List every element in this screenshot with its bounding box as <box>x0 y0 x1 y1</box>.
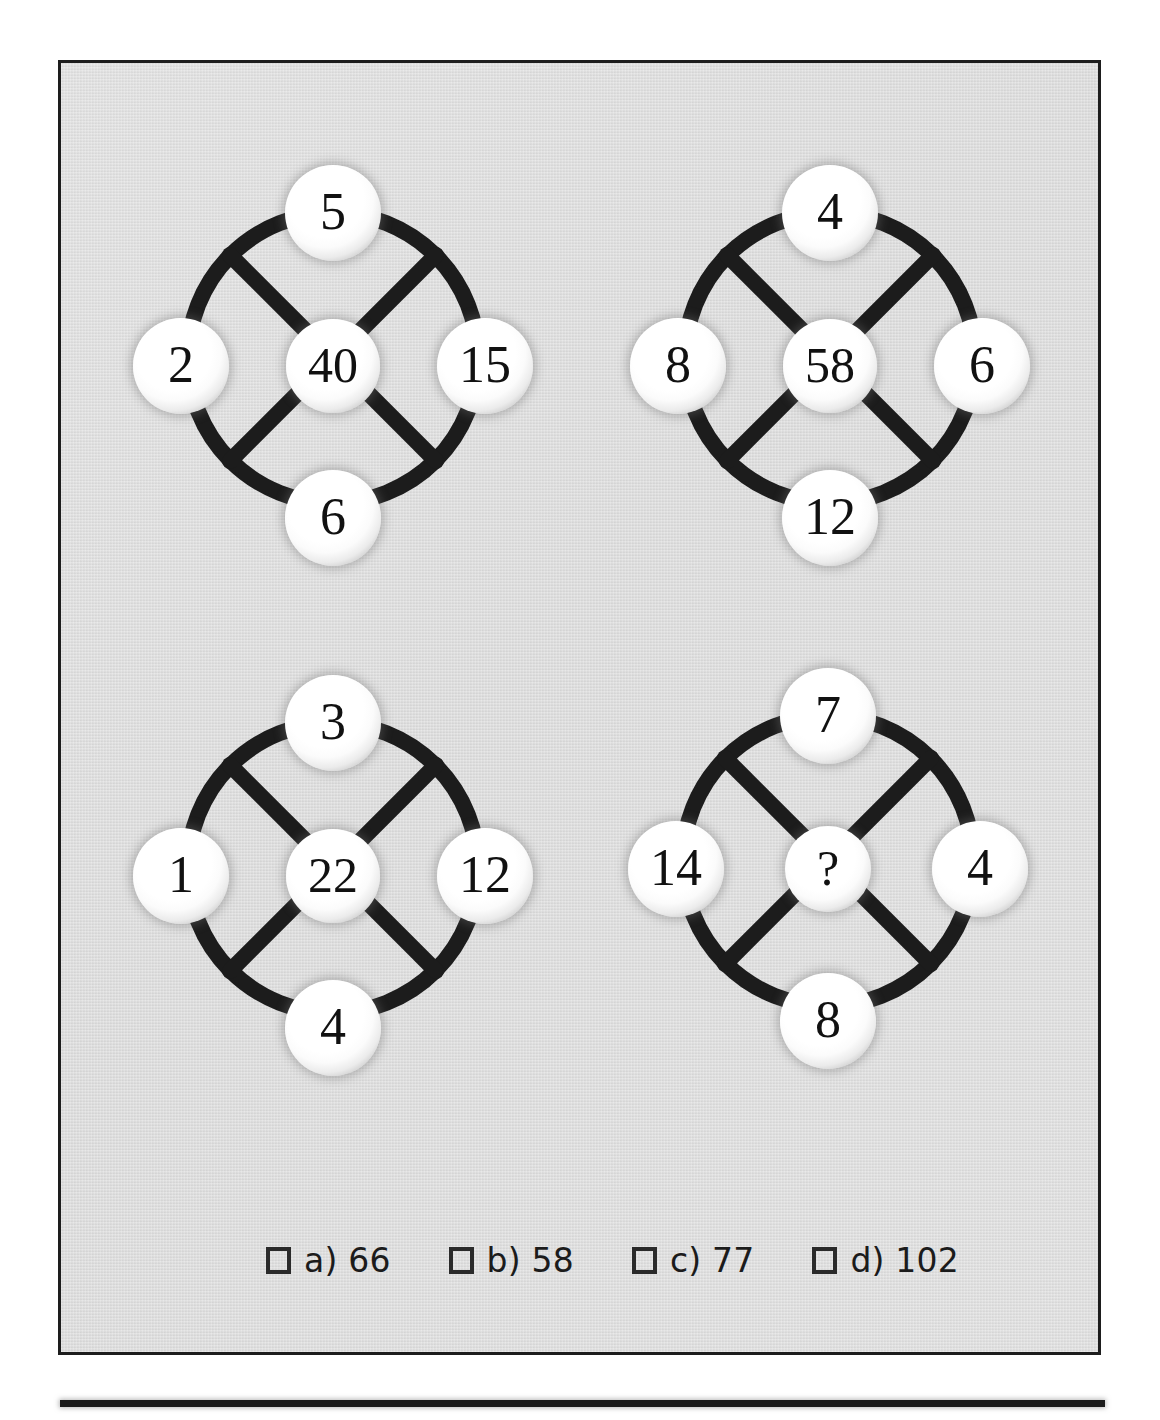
checkbox-icon-c[interactable] <box>632 1247 657 1274</box>
wheel-3-node-center: 22 <box>286 829 380 923</box>
wheel-4-node-center-unknown: ? <box>785 826 871 912</box>
checkbox-icon-d[interactable] <box>812 1247 837 1274</box>
wheel-3-left-value: 1 <box>168 849 194 901</box>
page-divider-rule <box>60 1400 1105 1407</box>
wheel-diagram-3: 3 1 12 4 22 <box>133 668 533 1068</box>
wheel-1-top-value: 5 <box>320 186 346 238</box>
answer-option-d-label: d) 102 <box>850 1241 959 1280</box>
wheel-4-node-left: 14 <box>628 821 724 917</box>
puzzle-panel: 5 2 15 6 40 4 8 6 12 58 <box>58 60 1101 1355</box>
wheel-3-node-top: 3 <box>285 675 381 771</box>
wheel-1-right-value: 15 <box>459 339 511 391</box>
answer-option-b-label: b) 58 <box>487 1241 574 1280</box>
wheel-1-center-value: 40 <box>308 340 358 390</box>
wheel-2-top-value: 4 <box>817 186 843 238</box>
wheel-2-center-value: 58 <box>805 340 855 390</box>
wheel-1-node-left: 2 <box>133 318 229 414</box>
wheel-4-right-value: 4 <box>967 842 993 894</box>
wheel-4-node-right: 4 <box>932 821 1028 917</box>
answer-option-c-label: c) 77 <box>670 1241 755 1280</box>
wheel-3-center-value: 22 <box>308 850 358 900</box>
wheel-4-node-bottom: 8 <box>780 973 876 1069</box>
wheel-diagram-1: 5 2 15 6 40 <box>133 158 533 558</box>
wheel-1-bottom-value: 6 <box>320 491 346 543</box>
wheel-diagram-2: 4 8 6 12 58 <box>630 158 1030 558</box>
wheel-2-bottom-value: 12 <box>804 491 856 543</box>
wheel-2-node-top: 4 <box>782 165 878 261</box>
wheel-1-left-value: 2 <box>168 339 194 391</box>
checkbox-icon-b[interactable] <box>449 1247 474 1274</box>
wheel-3-node-bottom: 4 <box>285 980 381 1076</box>
wheel-2-node-left: 8 <box>630 318 726 414</box>
wheel-3-node-right: 12 <box>437 828 533 924</box>
wheel-3-right-value: 12 <box>459 849 511 901</box>
answer-option-d[interactable]: d) 102 <box>812 1241 959 1280</box>
answer-options-row: a) 66 b) 58 c) 77 d) 102 <box>266 1241 959 1280</box>
answer-option-b[interactable]: b) 58 <box>449 1241 574 1280</box>
checkbox-icon-a[interactable] <box>266 1247 291 1274</box>
wheel-3-bottom-value: 4 <box>320 1001 346 1053</box>
wheel-1-node-center: 40 <box>286 319 380 413</box>
wheel-1-node-bottom: 6 <box>285 470 381 566</box>
answer-option-a-label: a) 66 <box>304 1241 391 1280</box>
wheel-2-node-right: 6 <box>934 318 1030 414</box>
wheel-4-left-value: 14 <box>650 842 702 894</box>
wheel-4-node-top: 7 <box>780 668 876 764</box>
wheel-4-center-value: ? <box>817 843 839 893</box>
wheel-2-node-bottom: 12 <box>782 470 878 566</box>
wheel-4-bottom-value: 8 <box>815 994 841 1046</box>
wheel-3-node-left: 1 <box>133 828 229 924</box>
answer-option-c[interactable]: c) 77 <box>632 1241 755 1280</box>
wheel-2-left-value: 8 <box>665 339 691 391</box>
wheel-2-right-value: 6 <box>969 339 995 391</box>
wheel-1-node-top: 5 <box>285 165 381 261</box>
wheel-1-node-right: 15 <box>437 318 533 414</box>
wheel-2-node-center: 58 <box>783 319 877 413</box>
wheel-diagram-4: 7 14 4 8 ? <box>628 661 1028 1061</box>
wheel-3-top-value: 3 <box>320 696 346 748</box>
answer-option-a[interactable]: a) 66 <box>266 1241 391 1280</box>
wheel-4-top-value: 7 <box>815 689 841 741</box>
